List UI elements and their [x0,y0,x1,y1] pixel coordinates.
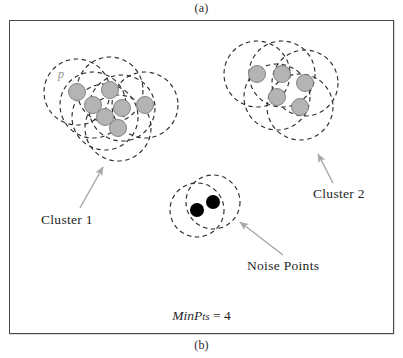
minpts-name-small: ts [202,310,209,322]
minpts-name: MinP [172,308,202,323]
cluster-1-label: Cluster 1 [41,212,93,228]
point-p-label: p [58,67,64,82]
noise-points-label: Noise Points [247,258,319,274]
dbscan-figure: (a) Cluster 1 Cluster 2 Noise Points p M… [0,0,403,358]
cluster-2-label: Cluster 2 [313,186,365,202]
figure-caption-bottom: (b) [0,338,403,353]
figure-caption-top: (a) [0,1,403,16]
minpts-value: = 4 [210,308,231,323]
figure-panel [9,20,394,334]
minpts-parameter-label: MinPts = 4 [0,308,403,324]
